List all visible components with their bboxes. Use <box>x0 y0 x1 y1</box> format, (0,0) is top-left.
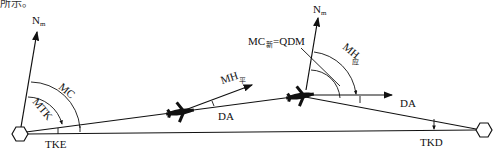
navigation-diagram: N m MC MTK TKE MH 平 DA N m MC 新 =QDM MH … <box>0 0 496 153</box>
mc-new-arc <box>311 70 340 98</box>
svg-text:应: 应 <box>352 57 359 66</box>
drift-angle-left-label: DA <box>218 110 234 122</box>
svg-text:m: m <box>40 20 46 28</box>
tkd-label: TKD <box>420 136 443 148</box>
mc-label: MC <box>57 80 78 100</box>
svg-text:m: m <box>321 9 327 17</box>
aircraft-2-icon <box>285 84 316 108</box>
svg-text:=QDM: =QDM <box>273 35 305 47</box>
aircraft-1-icon <box>165 100 196 124</box>
new-course-line <box>300 96 476 129</box>
mh-average-label: MH <box>219 69 240 86</box>
svg-text:平: 平 <box>239 77 246 85</box>
svg-text:新: 新 <box>266 40 273 49</box>
drift-angle-right-label: DA <box>400 97 416 109</box>
magnetic-north-left-arrow <box>21 32 37 127</box>
planned-course-line <box>26 130 476 134</box>
north-right-label: N <box>313 3 321 15</box>
start-point-hexagon-icon <box>12 127 28 141</box>
tke-label: TKE <box>45 138 67 150</box>
destination-hexagon-icon <box>476 123 492 137</box>
mtk-label: MTK <box>30 96 55 122</box>
north-left-label: N <box>32 14 40 26</box>
mc-new-label: MC <box>248 35 265 47</box>
mh-should-arc <box>314 52 356 94</box>
actual-track-line <box>26 96 300 132</box>
